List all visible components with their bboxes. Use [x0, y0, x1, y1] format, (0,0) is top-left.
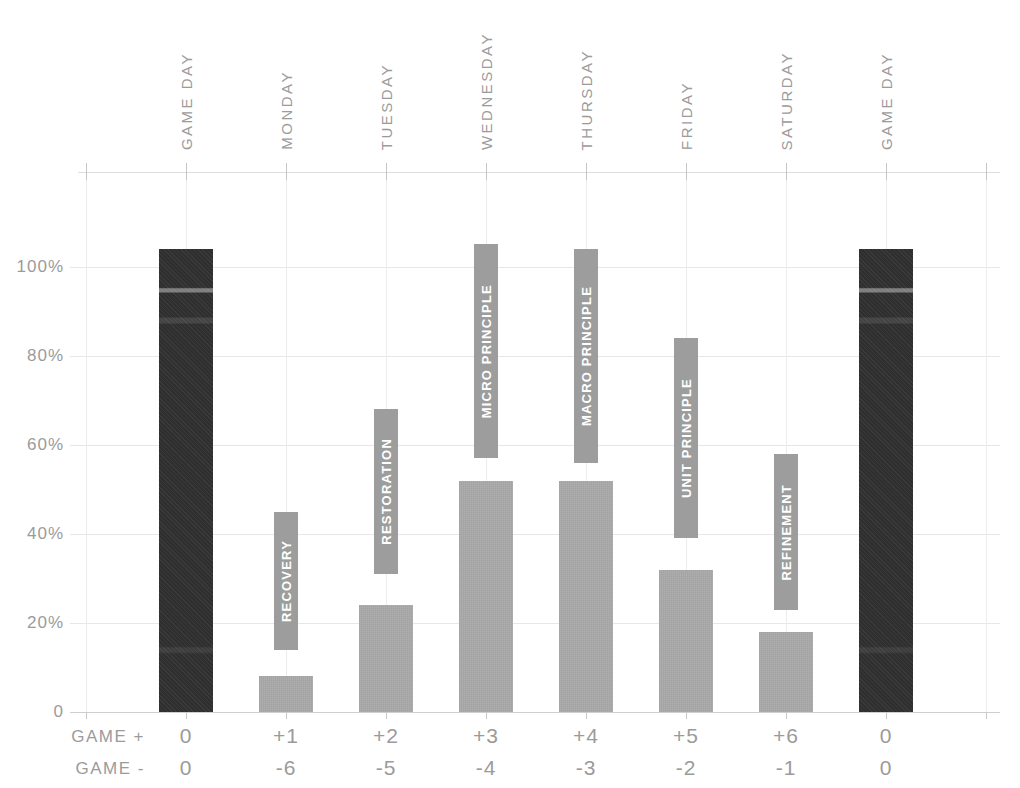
game-plus-value: +6	[736, 724, 836, 748]
phase-tag-label: RECOVERY	[279, 540, 294, 622]
y-tick-label-40: 40%	[0, 523, 64, 545]
game-minus-value: 0	[136, 756, 236, 780]
game-minus-row-label: GAME -	[0, 759, 145, 779]
y-tick-label-80: 80%	[0, 345, 64, 367]
column-thursday-4: THURSDAYMACRO PRINCIPLE+4-3	[536, 0, 636, 788]
bottom-tick	[86, 712, 87, 719]
day-label-friday-5: FRIDAY	[678, 81, 695, 150]
column-game-day-7: GAME DAY00	[836, 0, 936, 788]
bar-saturday-6	[759, 632, 813, 712]
phase-tag-label: REFINEMENT	[779, 484, 794, 581]
game-plus-value: 0	[836, 724, 936, 748]
game-minus-value: -6	[236, 756, 336, 780]
y-tick-label-20: 20%	[0, 612, 64, 634]
column-tuesday-2: TUESDAYRESTORATION+2-5	[336, 0, 436, 788]
phase-tag-label: MICRO PRINCIPLE	[479, 284, 494, 418]
day-label-monday-1: MONDAY	[278, 70, 295, 150]
weekly-training-load-chart: 100%80%60%40%20%0 GAME DAY00MONDAYRECOVE…	[0, 0, 1020, 788]
day-label-thursday-4: THURSDAY	[578, 49, 595, 150]
day-label-tuesday-2: TUESDAY	[378, 63, 395, 150]
chart-area: 100%80%60%40%20%0 GAME DAY00MONDAYRECOVE…	[0, 0, 1020, 788]
phase-tag-refinement: REFINEMENT	[774, 454, 798, 610]
bar-game-day-7	[859, 249, 913, 712]
game-minus-value: -1	[736, 756, 836, 780]
game-minus-value: -5	[336, 756, 436, 780]
phase-tag-unit-principle: UNIT PRINCIPLE	[674, 338, 698, 538]
day-label-saturday-6: SATURDAY	[778, 51, 795, 150]
top-tick	[986, 163, 987, 180]
bar-wednesday-3	[459, 481, 513, 712]
game-plus-value: +2	[336, 724, 436, 748]
game-plus-value: 0	[136, 724, 236, 748]
day-label-wrap: TUESDAY	[336, 5, 436, 150]
day-label-wednesday-3: WEDNESDAY	[478, 32, 495, 150]
day-label-game-day-0: GAME DAY	[178, 52, 195, 150]
column-friday-5: FRIDAYUNIT PRINCIPLE+5-2	[636, 0, 736, 788]
phase-tag-micro-principle: MICRO PRINCIPLE	[474, 244, 498, 458]
phase-tag-label: MACRO PRINCIPLE	[579, 286, 594, 426]
game-minus-value: -2	[636, 756, 736, 780]
bar-game-day-0	[159, 249, 213, 712]
column-game-day-0: GAME DAY00	[136, 0, 236, 788]
phase-tag-macro-principle: MACRO PRINCIPLE	[574, 249, 598, 463]
phase-tag-restoration: RESTORATION	[374, 409, 398, 574]
day-label-wrap: GAME DAY	[136, 5, 236, 150]
column-wednesday-3: WEDNESDAYMICRO PRINCIPLE+3-4	[436, 0, 536, 788]
bar-monday-1	[259, 676, 313, 712]
phase-tag-label: UNIT PRINCIPLE	[679, 378, 694, 498]
day-label-game-day-7: GAME DAY	[878, 52, 895, 150]
game-plus-value: +3	[436, 724, 536, 748]
game-plus-value: +4	[536, 724, 636, 748]
day-label-wrap: SATURDAY	[736, 5, 836, 150]
game-plus-value: +5	[636, 724, 736, 748]
day-label-wrap: WEDNESDAY	[436, 5, 536, 150]
phase-tag-label: RESTORATION	[379, 438, 394, 545]
game-plus-value: +1	[236, 724, 336, 748]
day-label-wrap: MONDAY	[236, 5, 336, 150]
y-tick-label-60: 60%	[0, 434, 64, 456]
day-label-wrap: THURSDAY	[536, 5, 636, 150]
bar-friday-5	[659, 570, 713, 712]
game-minus-value: -3	[536, 756, 636, 780]
phase-tag-recovery: RECOVERY	[274, 512, 298, 650]
day-label-wrap: GAME DAY	[836, 5, 936, 150]
game-minus-value: -4	[436, 756, 536, 780]
bottom-tick	[986, 712, 987, 719]
game-plus-row-label: GAME +	[0, 727, 145, 747]
y-tick-label-0: 0	[0, 701, 64, 723]
game-minus-value: 0	[836, 756, 936, 780]
column-saturday-6: SATURDAYREFINEMENT+6-1	[736, 0, 836, 788]
day-label-wrap: FRIDAY	[636, 5, 736, 150]
x-gridline	[986, 172, 987, 712]
bar-tuesday-2	[359, 605, 413, 712]
bar-thursday-4	[559, 481, 613, 712]
x-gridline	[86, 172, 87, 712]
y-tick-label-100: 100%	[0, 256, 64, 278]
column-monday-1: MONDAYRECOVERY+1-6	[236, 0, 336, 788]
top-tick	[86, 163, 87, 180]
